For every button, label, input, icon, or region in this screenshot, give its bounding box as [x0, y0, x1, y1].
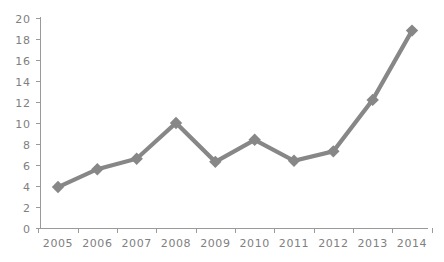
x-tick-label: 2014 — [397, 237, 427, 250]
x-tick-label: 2008 — [161, 237, 191, 250]
x-tick-label: 2010 — [239, 237, 269, 250]
x-tick-label: 2011 — [279, 237, 309, 250]
line-chart: 02468101214161820 2005200620072008200920… — [0, 0, 444, 262]
y-tick-label: 14 — [15, 76, 30, 89]
x-tick-label: 2005 — [43, 237, 73, 250]
x-tick-label: 2012 — [318, 237, 348, 250]
y-tick-label: 10 — [15, 118, 30, 131]
y-tick-label: 16 — [15, 55, 30, 68]
y-tick-label: 2 — [23, 202, 31, 215]
x-tick-label: 2007 — [121, 237, 151, 250]
x-tick-label: 2009 — [200, 237, 230, 250]
x-tick-label: 2006 — [82, 237, 112, 250]
y-tick-label: 0 — [23, 223, 31, 236]
chart-container: 02468101214161820 2005200620072008200920… — [0, 0, 444, 262]
y-tick-label: 20 — [15, 13, 30, 26]
y-tick-label: 8 — [23, 139, 31, 152]
y-tick-label: 12 — [15, 97, 30, 110]
y-tick-label: 18 — [15, 34, 30, 47]
chart-background — [0, 0, 444, 262]
y-tick-label: 6 — [23, 160, 31, 173]
x-tick-label: 2013 — [357, 237, 387, 250]
y-tick-label: 4 — [23, 181, 31, 194]
